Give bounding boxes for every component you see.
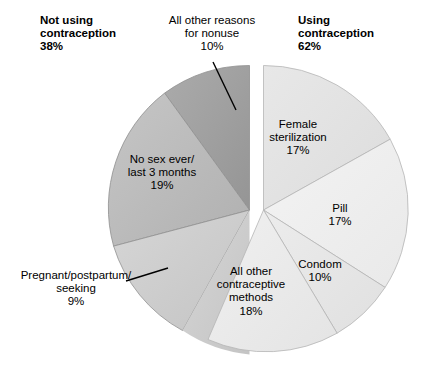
label-all-other-reasons-value: 10% — [200, 40, 223, 52]
label-no-sex-ever: No sex ever/ last 3 months 19% — [107, 153, 217, 193]
label-using-value: 62% — [298, 40, 321, 52]
label-no-sex-ever-text: No sex ever/ last 3 months — [128, 153, 196, 178]
label-not-using-title: Not using contraception — [40, 14, 116, 39]
label-all-other-methods-value: 18% — [239, 305, 262, 317]
label-female-sterilization: Female sterilization 17% — [253, 118, 343, 158]
label-using-contraception: Using contraception 62% — [298, 14, 418, 54]
label-pregnant-value: 9% — [68, 295, 85, 307]
label-pregnant-postpartum: Pregnant/postpartum/ seeking 9% — [2, 269, 150, 309]
label-pregnant-text: Pregnant/postpartum/ seeking — [21, 269, 132, 294]
label-using-title: Using contraception — [298, 14, 374, 39]
label-female-sterilization-text: Female sterilization — [269, 118, 327, 143]
label-pill-value: 17% — [328, 215, 351, 227]
label-all-other-contraceptive-methods: All other contraceptive methods 18% — [196, 265, 306, 318]
pie-chart-figure: Not using contraception 38% All other re… — [0, 0, 438, 368]
label-pill: Pill 17% — [310, 202, 370, 228]
label-condom-value: 10% — [308, 271, 331, 283]
label-no-sex-ever-value: 19% — [150, 179, 173, 191]
label-all-other-reasons-nonuse: All other reasons for nonuse 10% — [152, 14, 272, 54]
label-pill-text: Pill — [332, 202, 347, 214]
label-all-other-reasons-text: All other reasons for nonuse — [169, 14, 255, 39]
label-female-sterilization-value: 17% — [286, 144, 309, 156]
label-not-using-value: 38% — [40, 40, 63, 52]
label-not-using-contraception: Not using contraception 38% — [40, 14, 160, 54]
label-all-other-methods-text: All other contraceptive methods — [217, 265, 285, 303]
